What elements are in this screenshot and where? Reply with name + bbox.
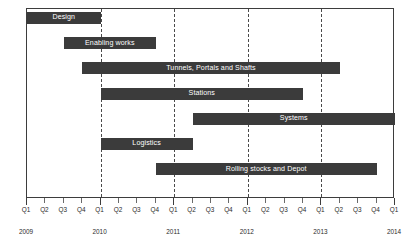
- quarter-label: Q4: [151, 206, 160, 213]
- quarter-label: Q4: [371, 206, 380, 213]
- x-axis-tick: [26, 198, 27, 205]
- quarter-label: Q1: [316, 206, 325, 213]
- x-axis-tick: [376, 198, 377, 203]
- quarter-label: Q3: [206, 206, 215, 213]
- x-axis-tick: [136, 198, 137, 203]
- quarter-label: Q4: [298, 206, 307, 213]
- gantt-bar-label: Logistics: [132, 140, 161, 147]
- quarter-label: Q1: [243, 206, 252, 213]
- gantt-bar[interactable]: Tunnels, Portals and Shafts: [82, 62, 340, 74]
- x-axis-tick: [173, 198, 174, 205]
- x-axis-tick: [100, 198, 101, 205]
- quarter-label: Q4: [77, 206, 86, 213]
- quarter-label: Q1: [95, 206, 104, 213]
- x-axis-tick: [357, 198, 358, 203]
- x-axis-tick: [284, 198, 285, 203]
- quarter-label: Q3: [59, 206, 68, 213]
- quarter-label: Q2: [40, 206, 49, 213]
- year-label: 2014: [387, 228, 401, 235]
- gantt-bar[interactable]: Systems: [193, 113, 395, 125]
- quarter-label: Q1: [169, 206, 178, 213]
- gantt-bar-label: Tunnels, Portals and Shafts: [166, 65, 256, 72]
- gantt-bar[interactable]: Stations: [101, 88, 303, 100]
- gantt-bar[interactable]: Enabling works: [64, 37, 156, 49]
- x-axis-tick: [339, 198, 340, 203]
- quarter-label: Q3: [353, 206, 362, 213]
- gantt-bar-label: Design: [52, 14, 75, 21]
- x-axis-tick: [63, 198, 64, 203]
- x-axis-tick: [302, 198, 303, 203]
- quarter-label: Q3: [132, 206, 141, 213]
- gantt-bar[interactable]: Logistics: [101, 138, 193, 150]
- year-label: 2009: [19, 228, 33, 235]
- gantt-chart: DesignEnabling worksTunnels, Portals and…: [0, 0, 418, 252]
- x-axis-tick: [228, 198, 229, 203]
- year-label: 2012: [240, 228, 254, 235]
- x-axis-tick: [44, 198, 45, 203]
- x-axis-tick: [155, 198, 156, 203]
- year-label: 2011: [166, 228, 180, 235]
- gantt-bar[interactable]: Rolling stocks and Depot: [156, 163, 377, 175]
- gantt-bar-label: Enabling works: [85, 40, 135, 47]
- x-axis-tick: [394, 198, 395, 205]
- x-axis-tick: [265, 198, 266, 203]
- x-axis-tick: [118, 198, 119, 203]
- quarter-label: Q1: [390, 206, 399, 213]
- quarter-label: Q1: [22, 206, 31, 213]
- quarter-label: Q2: [187, 206, 196, 213]
- x-axis-tick: [247, 198, 248, 205]
- x-axis-tick: [210, 198, 211, 203]
- gantt-bar-label: Rolling stocks and Depot: [226, 166, 307, 173]
- x-axis-tick: [192, 198, 193, 203]
- quarter-label: Q2: [261, 206, 270, 213]
- quarter-label: Q2: [335, 206, 344, 213]
- gantt-bar[interactable]: Design: [27, 12, 101, 24]
- x-axis-tick: [81, 198, 82, 203]
- year-label: 2010: [92, 228, 106, 235]
- plot-area: DesignEnabling worksTunnels, Portals and…: [26, 8, 394, 198]
- quarter-label: Q4: [224, 206, 233, 213]
- gantt-bar-label: Systems: [280, 115, 308, 122]
- x-axis-tick: [320, 198, 321, 205]
- quarter-label: Q3: [279, 206, 288, 213]
- year-label: 2013: [313, 228, 327, 235]
- gantt-bar-label: Stations: [189, 90, 215, 97]
- quarter-label: Q2: [114, 206, 123, 213]
